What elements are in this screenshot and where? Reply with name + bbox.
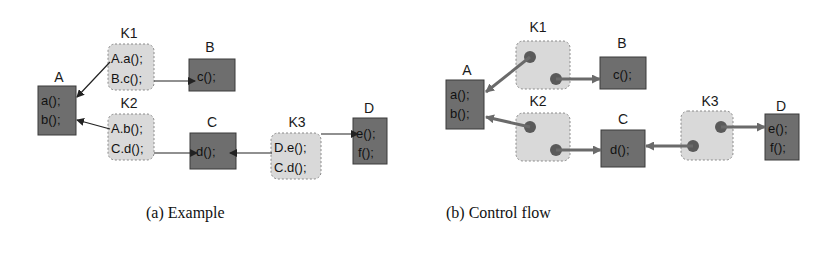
component-a-line-1-b: a(); [450,87,470,102]
connector-k2-line-1: A.b(); [111,121,143,136]
component-d-label: D [364,100,374,116]
component-a-line-2: b(); [41,112,61,127]
connector-k3-line-1: D.e(); [274,140,307,155]
component-b-line-1: c(); [197,69,216,84]
component-d-label-b: D [776,98,786,114]
component-b-label: B [205,39,214,55]
connector-k2-box-b [516,113,570,161]
component-a-label-b: A [462,62,472,78]
connector-k2-label: K2 [120,95,137,111]
panel-b-control-flow: A a(); b(); K1 B c(); K2 C d(); K3 D e()… [446,19,799,167]
component-d-line-2-b: f(); [770,140,786,155]
panel-a-example: A a(); b(); K1 A.a(); B.c(); B c(); K2 A… [38,25,387,179]
component-d-line-2: f(); [358,145,374,160]
connector-k1-label: K1 [120,25,137,41]
connector-k3-box-b [681,111,733,160]
connector-k3-label-b: K3 [701,93,718,109]
arrow-k1-to-a [77,62,110,97]
arrow-k2-to-a [77,120,110,129]
connector-k2-line-2: C.d(); [111,141,144,156]
component-c-line-1: d(); [196,144,216,159]
figure-canvas: A a(); b(); K1 A.a(); B.c(); B c(); K2 A… [0,0,829,254]
component-a-line-2-b: b(); [450,106,470,121]
component-c-label: C [207,114,217,130]
connector-k1-line-1: A.a(); [111,51,143,66]
component-b-label-b: B [617,35,626,51]
connector-k2-label-b: K2 [529,93,546,109]
component-c-label-b: C [618,111,628,127]
connector-k3-label: K3 [288,114,305,130]
connector-k1-line-2: B.c(); [111,71,142,86]
component-d-line-1-b: e(); [768,121,788,136]
connector-k3-line-2: C.d(); [274,160,307,175]
component-c-line-1-b: d(); [610,142,630,157]
connector-k1-label-b: K1 [529,19,546,35]
caption-a: (a) Example [146,204,225,222]
caption-b: (b) Control flow [446,204,551,222]
component-b-line-1-b: c(); [613,67,632,82]
component-a-label: A [54,69,64,85]
component-a-line-1: a(); [41,93,61,108]
component-d-line-1: e(); [356,126,376,141]
connector-k1-box-b [516,41,570,89]
